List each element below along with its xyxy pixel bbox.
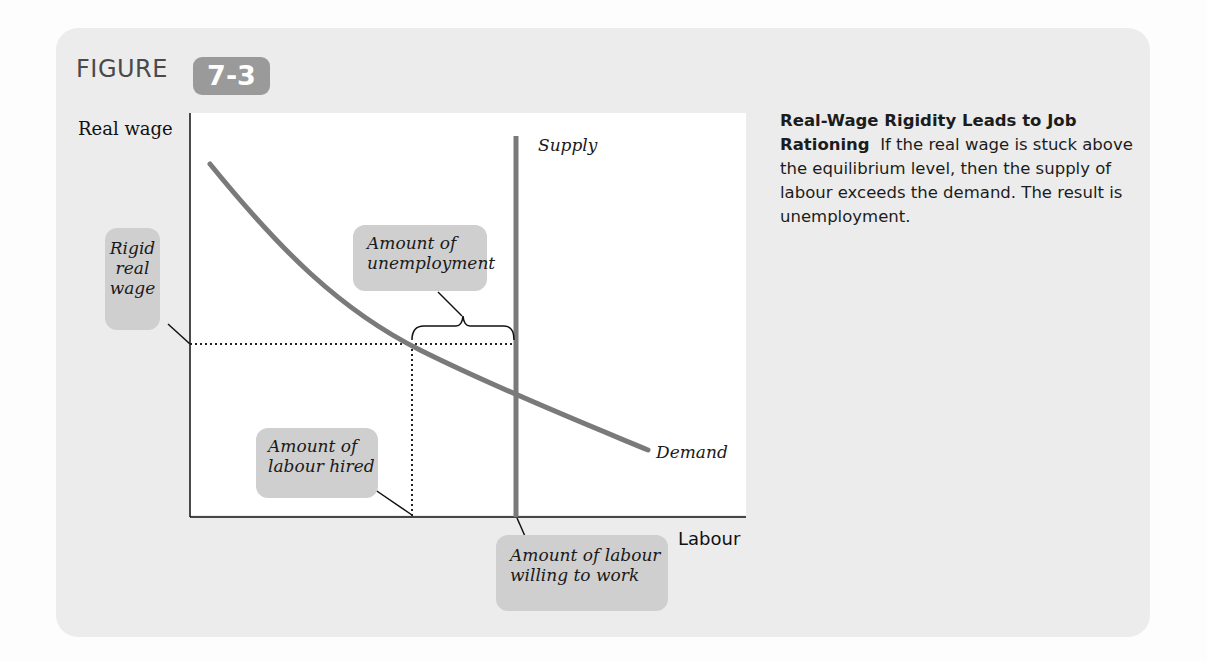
demand-curve bbox=[210, 164, 648, 450]
labour-hired-callout: Amount of labour hired bbox=[256, 428, 378, 498]
callout-line: Rigid bbox=[105, 238, 160, 258]
x-axis-label: Labour bbox=[678, 528, 740, 549]
demand-label: Demand bbox=[656, 442, 728, 462]
rigid-wage-callout: Rigid real wage bbox=[105, 228, 160, 330]
figure-caption: Real-Wage Rigidity Leads to Job Rationin… bbox=[780, 109, 1150, 229]
callout-line: Amount of bbox=[367, 233, 487, 253]
callout-line: unemployment bbox=[367, 253, 487, 273]
callout-line: willing to work bbox=[510, 565, 668, 585]
callout-line: Amount of bbox=[268, 436, 378, 456]
callout-line: labour hired bbox=[268, 456, 378, 476]
callout-line: real bbox=[105, 258, 160, 278]
rigid-wage-leader bbox=[168, 324, 190, 344]
unemployment-callout: Amount of unemployment bbox=[353, 225, 487, 291]
willing-to-work-callout: Amount of labour willing to work bbox=[496, 535, 668, 611]
supply-label: Supply bbox=[538, 135, 597, 155]
callout-line: Amount of labour bbox=[510, 545, 668, 565]
unemployment-leader bbox=[438, 292, 462, 316]
unemployment-brace bbox=[412, 316, 514, 340]
callout-line: wage bbox=[105, 278, 160, 298]
